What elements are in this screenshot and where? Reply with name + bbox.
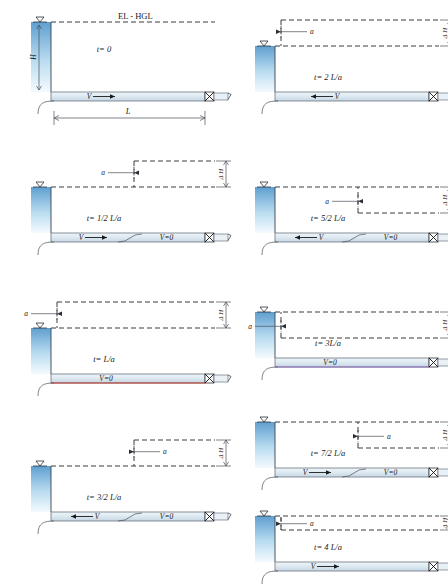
delta-h-label: Δ H (441, 429, 448, 442)
time-label: t= L/a (93, 354, 115, 364)
delta-h-label: Δ H (441, 194, 448, 207)
zero-velocity-label: V=0 (384, 233, 398, 242)
time-label: t= 2 L/a (314, 72, 342, 82)
wave-speed-label: a (248, 322, 252, 331)
panel-t0: EL - HGLHLVt= 0 (0, 0, 224, 141)
zero-velocity-label: V=0 (160, 233, 174, 242)
wave-speed-label: a (310, 519, 314, 528)
wave-speed-label: a (163, 447, 167, 456)
time-label: t= 7/2 L/a (311, 448, 346, 458)
zero-velocity-label: V=0 (323, 358, 337, 367)
wave-speed-label: a (325, 197, 329, 206)
panel-t2: Δ HaVt= 2 L/a (224, 0, 448, 141)
delta-h-label: Δ H (441, 319, 448, 332)
time-label: t= 3/2 L/a (87, 492, 122, 502)
time-label: t= 4 L/a (314, 542, 342, 552)
time-label: t= 3L/a (315, 338, 341, 348)
zero-velocity-label: V=0 (160, 512, 174, 521)
zero-velocity-label: V=0 (99, 374, 113, 383)
time-label: t= 5/2 L/a (311, 213, 346, 223)
panel-t15: Δ HaVV=0t= 3/2 L/a (0, 420, 224, 561)
panel-t1: Δ HaV=0t= L/a (0, 282, 224, 423)
panel-t05: Δ HaVV=0t= 1/2 L/a (0, 141, 224, 282)
delta-h-label: Δ H (441, 517, 448, 530)
hgl-label: EL - HGL (118, 11, 153, 21)
delta-h-label: Δ H (441, 27, 448, 40)
time-label: t= 1/2 L/a (87, 213, 122, 223)
wave-speed-label: a (24, 309, 28, 318)
head-height-label: H (29, 54, 38, 61)
wave-speed-label: a (387, 432, 391, 441)
time-label: t= 0 (97, 44, 112, 54)
panel-t4: Δ HaVt= 4 L/a (224, 470, 448, 588)
wave-speed-label: a (101, 168, 105, 177)
panel-t25: Δ HaVV=0t= 5/2 L/a (224, 141, 448, 282)
pipe-length-label: L (125, 106, 131, 116)
wave-speed-label: a (310, 27, 314, 36)
